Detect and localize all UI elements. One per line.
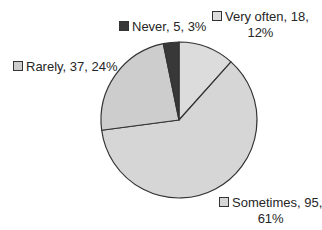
legend-swatch-rarely <box>13 61 23 71</box>
data-label-never: Never, 5, 3% <box>119 19 206 35</box>
label-sometimes-text: Sometimes, 95, <box>232 195 322 210</box>
legend-swatch-never <box>119 21 129 31</box>
label-sometimes-percent: 61% <box>258 211 284 226</box>
data-label-sometimes: Sometimes, 95, 61% <box>219 195 322 227</box>
legend-swatch-sometimes <box>219 197 229 207</box>
label-very-often-text: Very often, 18, <box>225 9 309 24</box>
label-rarely-text: Rarely, 37, 24% <box>26 59 118 74</box>
legend-swatch-very-often <box>212 11 222 21</box>
data-label-very-often: Very often, 18, 12% <box>212 9 309 41</box>
label-never-text: Never, 5, 3% <box>132 19 206 34</box>
label-very-often-percent: 12% <box>247 25 273 40</box>
data-label-rarely: Rarely, 37, 24% <box>13 59 118 75</box>
